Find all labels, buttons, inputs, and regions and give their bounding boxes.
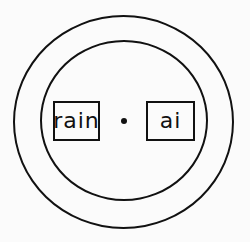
label-text-right: ai bbox=[160, 110, 182, 132]
diagram-canvas: rain ai bbox=[0, 0, 250, 242]
center-dot bbox=[121, 118, 127, 124]
label-box-right: ai bbox=[146, 101, 195, 141]
label-text-left: rain bbox=[53, 110, 100, 132]
label-box-left: rain bbox=[53, 101, 100, 141]
